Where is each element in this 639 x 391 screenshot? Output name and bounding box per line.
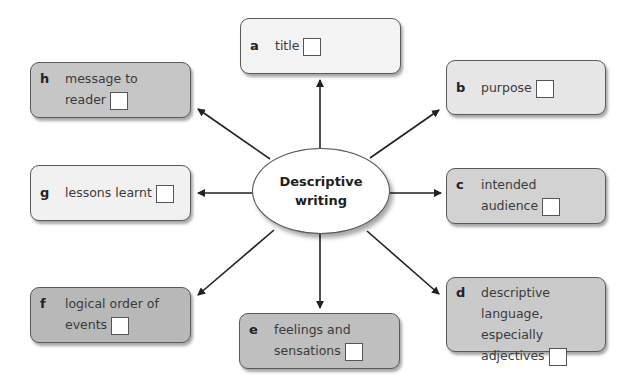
arrow-to-b	[370, 110, 439, 158]
node-letter: c	[456, 174, 464, 195]
node-label: title	[275, 38, 299, 53]
node-d-descriptive-language: d descriptive language, especially adjec…	[446, 277, 606, 352]
node-label-line2: audience	[481, 198, 538, 213]
center-node-descriptive-writing: Descriptive writing	[252, 148, 390, 234]
arrow-to-d	[367, 231, 439, 294]
node-label-line1: message to	[65, 68, 184, 89]
node-label-line1: feelings and	[274, 319, 393, 340]
center-label-line1: Descriptive	[279, 172, 362, 191]
node-c-intended-audience: c intended audience	[446, 168, 606, 224]
checkbox-e[interactable]	[345, 343, 363, 361]
node-f-logical-order: f logical order of events	[30, 287, 191, 343]
node-label-line1: descriptive	[481, 282, 599, 303]
node-label-line2: reader	[65, 92, 106, 107]
node-letter: a	[250, 35, 259, 56]
checkbox-d[interactable]	[549, 348, 567, 366]
checkbox-a[interactable]	[303, 38, 321, 56]
node-g-lessons-learnt: g lessons learnt	[30, 165, 191, 221]
node-letter: f	[40, 293, 46, 314]
checkbox-h[interactable]	[110, 92, 128, 110]
checkbox-f[interactable]	[111, 317, 129, 335]
node-label-line1: logical order of	[65, 293, 184, 314]
node-label-line1: intended	[481, 174, 599, 195]
node-label: lessons learnt	[65, 185, 152, 200]
node-letter: e	[249, 319, 258, 340]
node-label-line3: adjectives	[481, 348, 545, 363]
node-letter: g	[40, 182, 49, 203]
node-label-line2: language, especially	[481, 303, 599, 345]
arrow-to-f	[198, 230, 274, 295]
node-letter: h	[40, 68, 49, 89]
node-label-line2: events	[65, 317, 107, 332]
node-a-title: a title	[240, 18, 401, 74]
checkbox-b[interactable]	[536, 80, 554, 98]
node-b-purpose: b purpose	[446, 60, 606, 115]
checkbox-c[interactable]	[542, 198, 560, 216]
arrow-to-h	[198, 109, 270, 159]
node-letter: d	[456, 282, 465, 303]
checkbox-g[interactable]	[156, 185, 174, 203]
node-label: purpose	[481, 80, 532, 95]
node-e-feelings: e feelings and sensations	[239, 313, 400, 369]
node-letter: b	[456, 77, 465, 98]
node-label-line2: sensations	[274, 343, 341, 358]
node-h-message-to-reader: h message to reader	[30, 62, 191, 118]
center-label-line2: writing	[279, 191, 362, 210]
